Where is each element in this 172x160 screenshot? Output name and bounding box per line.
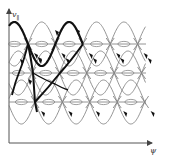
highlighted-orbit — [9, 22, 83, 112]
y-axis-label: v∥ — [12, 11, 19, 21]
phase-space-plot — [0, 0, 172, 160]
phase-space-figure: v∥ ψ — [0, 0, 172, 160]
x-axis-label: ψ — [150, 147, 156, 155]
